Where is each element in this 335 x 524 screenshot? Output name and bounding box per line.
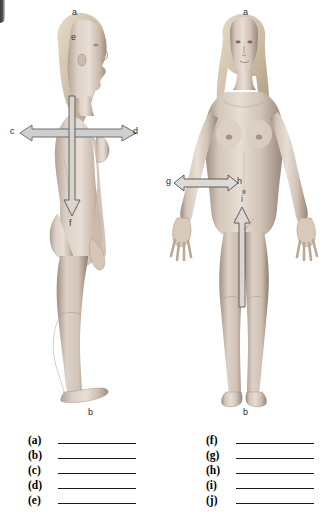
answer-row-e[interactable]: (e): [28, 492, 136, 507]
label-anterior-b: b: [243, 408, 248, 417]
vertical-up-arrow-i: [232, 207, 252, 307]
answer-row-g[interactable]: (g): [206, 447, 314, 462]
vertical-down-arrow-f: [62, 96, 82, 220]
answer-line-h[interactable]: [236, 473, 314, 474]
answer-row-b[interactable]: (b): [28, 447, 136, 462]
label-anterior-g: g: [166, 177, 171, 186]
answer-line-a[interactable]: [58, 443, 136, 444]
nipple: [226, 134, 232, 139]
answer-line-g[interactable]: [236, 458, 314, 459]
leg-shape: [57, 256, 88, 394]
answer-key-b: (b): [28, 449, 54, 462]
lateral-view-figure: [18, 8, 158, 408]
answer-key-i: (i): [206, 479, 232, 492]
illustration-canvas: a e c d f b a g h i b (a) (b) (c) (d): [0, 0, 335, 524]
horizontal-double-arrow-gh: [172, 172, 240, 194]
answer-line-j[interactable]: [236, 503, 314, 504]
answer-row-h[interactable]: (h): [206, 462, 314, 477]
answer-row-d[interactable]: (d): [28, 477, 136, 492]
label-anterior-i: i: [241, 195, 243, 204]
answer-key-f: (f): [206, 434, 232, 447]
answer-row-a[interactable]: (a): [28, 432, 136, 447]
answer-row-j[interactable]: (j): [206, 492, 314, 507]
hand-left-shape: [171, 218, 191, 260]
foot-left-shape: [222, 392, 243, 407]
label-lateral-b: b: [88, 408, 93, 417]
answer-line-b[interactable]: [58, 458, 136, 459]
label-lateral-a: a: [72, 8, 77, 17]
answer-row-i[interactable]: (i): [206, 477, 314, 492]
answer-line-f[interactable]: [236, 443, 314, 444]
label-lateral-d: d: [133, 127, 138, 136]
answer-key-e: (e): [28, 494, 54, 507]
answer-line-i[interactable]: [236, 488, 314, 489]
label-anterior-a: a: [243, 8, 248, 17]
label-lateral-f: f: [69, 219, 72, 228]
label-lateral-c: c: [10, 127, 15, 136]
answer-column-left: (a) (b) (c) (d) (e): [28, 432, 136, 507]
answer-key-a: (a): [28, 434, 54, 447]
answer-row-f[interactable]: (f): [206, 432, 314, 447]
answer-key-g: (g): [206, 449, 232, 462]
answer-line-e[interactable]: [58, 503, 136, 504]
answer-key-c: (c): [28, 464, 54, 477]
answer-key-h: (h): [206, 464, 232, 477]
foot-right-shape: [246, 392, 267, 407]
label-anterior-h: h: [237, 177, 242, 186]
answer-row-c[interactable]: (c): [28, 462, 136, 477]
answer-line-c[interactable]: [58, 473, 136, 474]
answer-blank-list: (a) (b) (c) (d) (e) (f): [0, 432, 335, 524]
answer-column-right: (f) (g) (h) (i) (j): [206, 432, 314, 507]
nipple: [256, 134, 262, 139]
cropped-chrome-strip: [0, 0, 5, 23]
label-lateral-e: e: [71, 33, 76, 42]
answer-key-d: (d): [28, 479, 54, 492]
answer-key-j: (j): [206, 494, 232, 507]
hand-right-shape: [297, 218, 317, 260]
answer-line-d[interactable]: [58, 488, 136, 489]
